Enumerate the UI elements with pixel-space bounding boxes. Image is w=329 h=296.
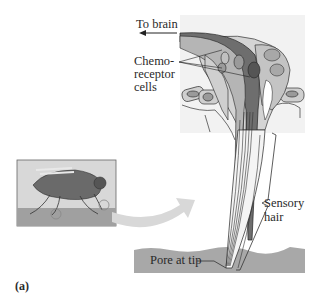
label-to-brain: To brain bbox=[136, 18, 178, 31]
label-chemoreceptor-3: cells bbox=[134, 81, 157, 94]
magnify-arrow bbox=[112, 198, 195, 227]
neuron-nucleus-3 bbox=[221, 52, 229, 64]
neuron-nucleus-1 bbox=[248, 62, 260, 78]
label-sensory-1: Sensory bbox=[264, 197, 304, 210]
label-pore: Pore at tip bbox=[150, 254, 201, 267]
fly-inset bbox=[17, 160, 116, 226]
panel-label: (a) bbox=[15, 280, 29, 293]
diagram-canvas bbox=[0, 0, 329, 296]
label-sensory-2: hair bbox=[264, 211, 283, 224]
neuron-nucleus-2 bbox=[234, 55, 244, 69]
